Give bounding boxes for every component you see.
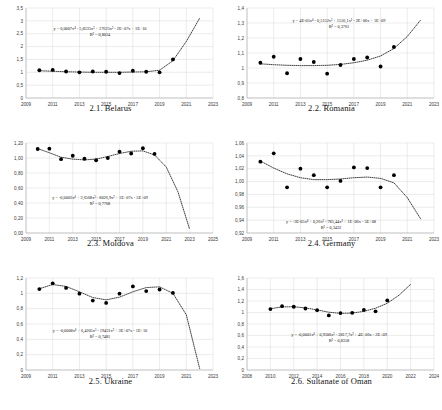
y-axis-tick-label: 0,4 — [17, 337, 24, 342]
y-axis-tick-label: 1,00 — [14, 156, 23, 161]
y-axis-tick-label: 1,1 — [238, 51, 245, 56]
r-squared-label: R² = 0,8024 — [90, 32, 111, 38]
data-point — [299, 167, 303, 171]
data-point — [365, 166, 369, 170]
data-point — [374, 309, 378, 313]
plot-area-romania: 0,80,911,11,21,31,4200920112013201520172… — [221, 0, 442, 118]
figure-grid: 00,511,522,533,5200920112013201520172019… — [0, 0, 442, 410]
y-axis-tick-label: 0,80 — [14, 171, 23, 176]
y-axis-tick-label: 0,00 — [14, 231, 23, 236]
trendline — [39, 285, 199, 369]
y-axis-tick-label: 0 — [20, 96, 23, 101]
chart-panel-ukraine: 00,20,40,60,811,220092011201320152017201… — [0, 270, 221, 410]
chart-panel-belarus: 00,511,522,533,5200920112013201520172019… — [0, 0, 221, 135]
scatter-svg-romania: 0,80,911,11,21,31,4200920112013201520172… — [221, 0, 442, 118]
data-point — [37, 68, 41, 72]
scatter-svg-germany: 0,920,940,960,981,001,021,041,0620092011… — [221, 135, 442, 253]
plot-area-oman: 00,20,40,60,811,21,41,620082010201220142… — [221, 270, 442, 390]
data-point — [392, 173, 396, 177]
chart-caption-ukraine: 2.5. Ukraine — [0, 376, 221, 386]
y-axis-tick-label: 0,98 — [235, 192, 244, 197]
scatter-svg-moldova: 0,000,200,400,600,801,001,20200920112013… — [0, 135, 221, 253]
y-axis-tick-label: 1,00 — [235, 179, 244, 184]
chart-caption-oman: 2.6. Sultanate of Oman — [221, 376, 442, 386]
data-point — [36, 147, 40, 151]
y-axis-tick-label: 1,02 — [235, 166, 244, 171]
data-point — [71, 154, 75, 158]
data-point — [104, 301, 108, 305]
data-point — [51, 281, 55, 285]
data-point — [118, 71, 122, 75]
data-point — [258, 61, 262, 65]
data-point — [352, 57, 356, 61]
data-point — [304, 307, 308, 311]
y-axis-tick-label: 1,20 — [14, 141, 23, 146]
data-point — [327, 313, 331, 317]
data-point — [312, 173, 316, 177]
y-axis-tick-label: 1,4 — [238, 6, 245, 11]
data-point — [91, 299, 95, 303]
plot-area-belarus: 00,511,522,533,5200920112013201520172019… — [0, 0, 221, 118]
data-point — [47, 147, 51, 151]
r-squared-label: R² = 0,8358 — [329, 338, 350, 344]
data-point — [59, 157, 63, 161]
y-axis-tick-label: 0,40 — [14, 201, 23, 206]
data-point — [315, 308, 319, 312]
data-point — [339, 63, 343, 67]
y-axis-tick-label: 1,06 — [235, 141, 244, 146]
data-point — [285, 71, 289, 75]
y-axis-tick-label: 1,5 — [17, 57, 24, 62]
data-point — [118, 292, 122, 296]
data-point — [272, 55, 276, 59]
trendline — [260, 161, 420, 219]
data-point — [64, 70, 68, 74]
data-point — [131, 69, 135, 73]
y-axis-tick-label: 3 — [20, 19, 23, 24]
plot-area-germany: 0,920,940,960,981,001,021,041,0620092011… — [221, 135, 442, 253]
data-point — [51, 68, 55, 72]
y-axis-tick-label: 0,96 — [235, 205, 244, 210]
scatter-svg-ukraine: 00,20,40,60,811,220092011201320152017201… — [0, 270, 221, 390]
chart-panel-romania: 0,80,911,11,21,31,4200920112013201520172… — [221, 0, 442, 135]
data-point — [64, 286, 68, 290]
data-point — [352, 166, 356, 170]
scatter-svg-oman: 00,20,40,60,811,21,41,620082010201220142… — [221, 270, 442, 390]
data-point — [129, 152, 133, 156]
y-axis-tick-label: 0,6 — [17, 322, 24, 327]
y-axis-tick-label: 0,94 — [235, 218, 244, 223]
y-axis-tick-label: 1,04 — [235, 154, 244, 159]
chart-panel-moldova: 0,000,200,400,600,801,001,20200920112013… — [0, 135, 221, 270]
y-axis-tick-label: 0 — [20, 368, 23, 373]
data-point — [118, 150, 122, 154]
data-point — [37, 287, 41, 291]
data-point — [385, 299, 389, 303]
y-axis-tick-label: 0,92 — [235, 231, 244, 236]
y-axis-tick-label: 0,20 — [14, 216, 23, 221]
chart-caption-germany: 2.4. Germany — [221, 238, 442, 248]
r-squared-label: R² = 0,7768 — [90, 201, 111, 207]
scatter-svg-belarus: 00,511,522,533,5200920112013201520172019… — [0, 0, 221, 118]
y-axis-tick-label: 0,60 — [14, 186, 23, 191]
y-axis-tick-label: 1,4 — [238, 287, 245, 292]
r-squared-label: R² = 0,3761 — [329, 24, 350, 30]
chart-caption-moldova: 2.3. Moldova — [0, 238, 221, 248]
data-point — [362, 308, 366, 312]
y-axis-tick-label: 1 — [241, 310, 244, 315]
data-point — [272, 151, 276, 155]
y-axis-tick-label: 1,2 — [238, 36, 245, 41]
y-axis-tick-label: 3,5 — [17, 6, 24, 11]
y-axis-tick-label: 0,9 — [238, 81, 245, 86]
data-point — [292, 305, 296, 309]
y-axis-tick-label: 1 — [241, 66, 244, 71]
r-squared-label: R² = 0,3432 — [321, 225, 342, 231]
y-axis-tick-label: 2 — [20, 44, 23, 49]
y-axis-tick-label: 2,5 — [17, 31, 24, 36]
data-point — [78, 70, 82, 74]
y-axis-tick-label: 1,2 — [17, 276, 24, 281]
data-point — [379, 65, 383, 69]
y-axis-tick-label: 0,8 — [238, 96, 245, 101]
data-point — [158, 288, 162, 292]
chart-caption-belarus: 2.1. Belarus — [0, 103, 221, 113]
y-axis-tick-label: 1 — [20, 291, 23, 296]
y-axis-tick-label: 0,4 — [238, 345, 245, 350]
